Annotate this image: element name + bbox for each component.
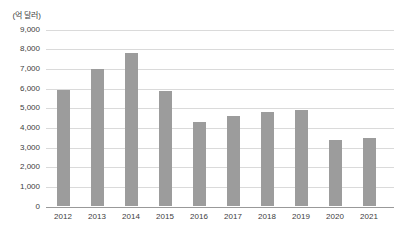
- x-tick-label: 2013: [80, 213, 114, 221]
- x-tick-label: 2021: [352, 213, 386, 221]
- gridline: [46, 30, 394, 31]
- bar-2015: [159, 91, 172, 206]
- x-tick-label: 2017: [216, 213, 250, 221]
- x-axis-line: [46, 207, 394, 208]
- bar-2013: [91, 69, 104, 207]
- y-tick-label: 3,000: [0, 144, 40, 152]
- bar-2014: [125, 53, 138, 206]
- y-tick-label: 5,000: [0, 104, 40, 112]
- bar-2016: [193, 122, 206, 207]
- y-tick-label: 8,000: [0, 45, 40, 53]
- x-tick-label: 2016: [182, 213, 216, 221]
- bar-2021: [363, 138, 376, 207]
- x-tick-label: 2015: [148, 213, 182, 221]
- y-tick-label: 6,000: [0, 85, 40, 93]
- y-tick-label: 7,000: [0, 65, 40, 73]
- y-tick-label: 0: [0, 203, 40, 211]
- y-tick-label: 4,000: [0, 124, 40, 132]
- x-tick-label: 2020: [318, 213, 352, 221]
- bar-chart: (억 달러) 01,0002,0003,0004,0005,0006,0007,…: [0, 0, 401, 233]
- bar-2012: [57, 90, 70, 206]
- bar-2020: [329, 140, 342, 207]
- x-tick-label: 2014: [114, 213, 148, 221]
- y-axis-unit-label: (억 달러): [0, 9, 41, 20]
- y-tick-label: 9,000: [0, 26, 40, 34]
- x-tick-label: 2012: [46, 213, 80, 221]
- gridline: [46, 49, 394, 50]
- bar-2017: [227, 116, 240, 206]
- y-tick-label: 2,000: [0, 163, 40, 171]
- bar-2018: [261, 112, 274, 206]
- x-tick-label: 2018: [250, 213, 284, 221]
- x-tick-label: 2019: [284, 213, 318, 221]
- bar-2019: [295, 110, 308, 206]
- y-tick-label: 1,000: [0, 183, 40, 191]
